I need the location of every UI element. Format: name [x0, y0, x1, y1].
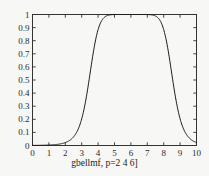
- x-tick-label: 6: [129, 149, 134, 158]
- x-tick-label: 10: [192, 149, 201, 158]
- x-tick-label: 2: [63, 149, 68, 158]
- x-tick-label: 8: [161, 149, 166, 158]
- y-tick-label: 0.7: [18, 49, 29, 58]
- y-tick-label: 0.9: [18, 23, 29, 32]
- y-tick-label: 0.1: [18, 128, 29, 137]
- chart-figure-root: 00.10.20.30.40.50.60.70.80.9101234567891…: [0, 0, 209, 176]
- x-tick-label: 0: [30, 149, 35, 158]
- y-tick-label: 0.4: [18, 89, 29, 98]
- y-tick-label: 0: [25, 141, 30, 150]
- y-tick-label: 1: [25, 10, 30, 19]
- y-tick-label: 0.8: [18, 36, 29, 45]
- x-axis-label: gbellmf, p=2 4 6]: [0, 158, 209, 168]
- plot-frame: [33, 15, 197, 146]
- x-tick-label: 9: [178, 149, 183, 158]
- y-tick-label: 0.2: [18, 115, 29, 124]
- x-tick-label: 4: [96, 149, 101, 158]
- gbellmf-curve: [33, 15, 197, 146]
- x-tick-label: 1: [47, 149, 52, 158]
- x-tick-label: 5: [112, 149, 117, 158]
- x-tick-label: 7: [145, 149, 150, 158]
- axis-ticks: [33, 15, 197, 146]
- y-tick-label: 0.5: [18, 76, 29, 85]
- y-tick-label: 0.3: [18, 102, 29, 111]
- y-tick-label: 0.6: [18, 62, 29, 71]
- x-tick-label: 3: [79, 149, 84, 158]
